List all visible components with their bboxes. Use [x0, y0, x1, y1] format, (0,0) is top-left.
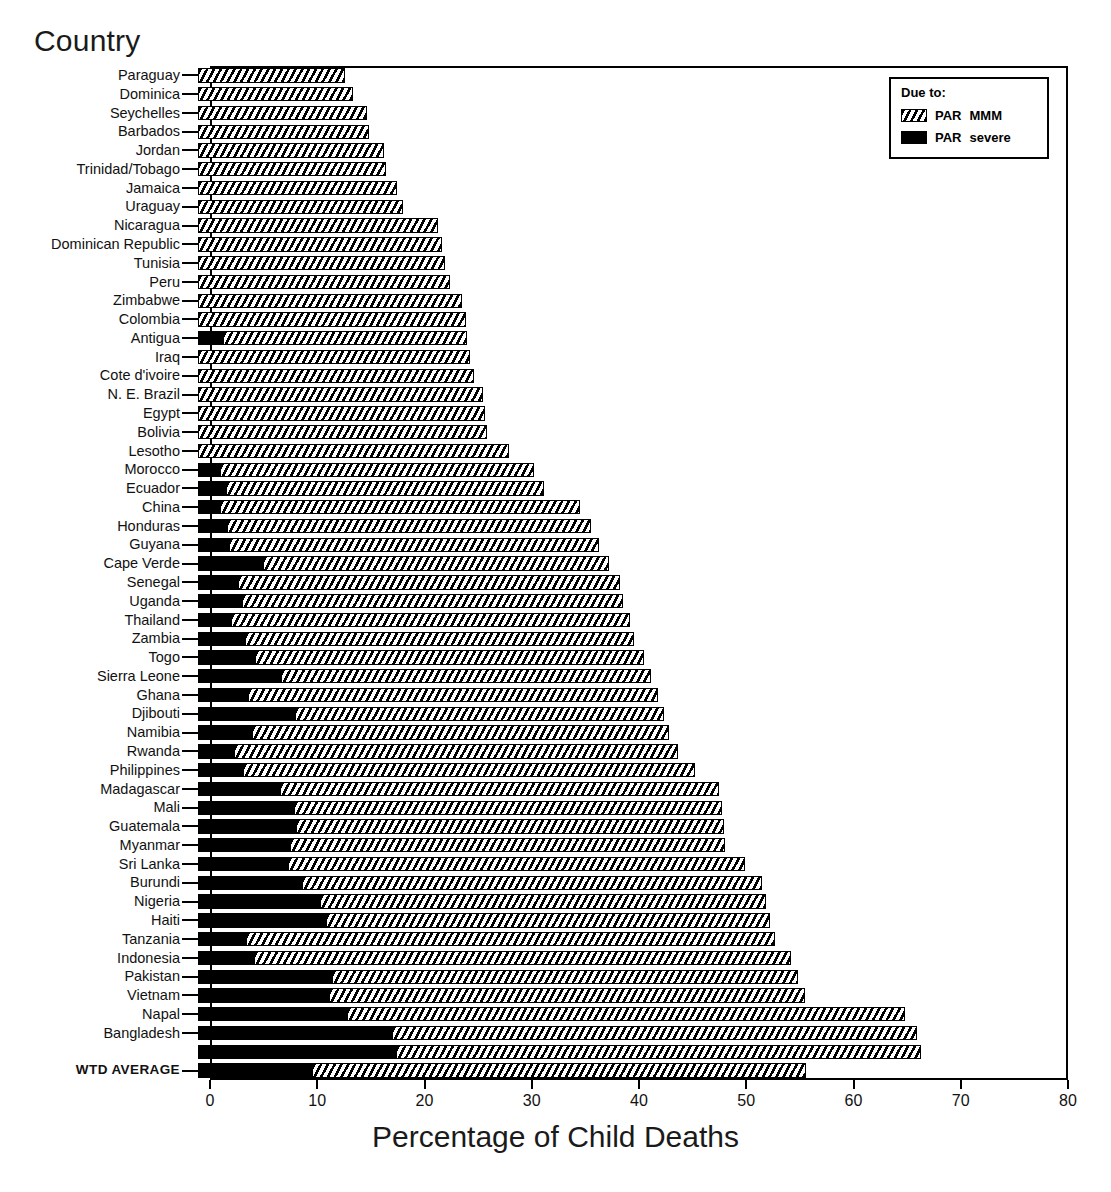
bar-row: Uraguay	[0, 197, 1111, 216]
stacked-bar	[198, 1063, 806, 1077]
bar-row: Cape Verde	[0, 554, 1111, 573]
bar-segment-par-mmm	[297, 820, 724, 832]
bar-segment-par-mmm	[199, 219, 438, 231]
bar-segment-par-mmm	[327, 914, 770, 926]
bar-row: Myanmar	[0, 836, 1111, 855]
stacked-bar	[198, 801, 722, 815]
bar-segment-par-severe	[199, 501, 221, 513]
bar-row: Philippines	[0, 761, 1111, 780]
stacked-bar	[198, 970, 798, 984]
bar-segment-par-mmm	[199, 370, 474, 382]
bar-segment-par-mmm	[348, 1008, 905, 1020]
stacked-bar	[198, 688, 658, 702]
stacked-bar	[198, 181, 397, 195]
category-label: Iraq	[0, 348, 180, 367]
bar-segment-par-mmm	[199, 313, 466, 325]
stacked-bar	[198, 725, 669, 739]
bar-row: Bangladesh	[0, 1024, 1111, 1043]
bar-row: Colombia	[0, 310, 1111, 329]
stacked-bar	[198, 988, 805, 1002]
stacked-bar	[198, 444, 509, 458]
bar-segment-par-mmm	[199, 426, 487, 438]
bar-segment-par-severe	[199, 633, 246, 645]
category-label: Bangladesh	[0, 1024, 180, 1043]
bar-row: Trinidad/Tobago	[0, 160, 1111, 179]
bar-segment-par-severe	[199, 1027, 393, 1039]
bar-row: Dominican Republic	[0, 235, 1111, 254]
bar-row	[0, 1042, 1111, 1061]
category-label: Honduras	[0, 517, 180, 536]
bar-row: Djibouti	[0, 704, 1111, 723]
bar-segment-par-mmm	[199, 257, 445, 269]
bar-segment-par-mmm	[264, 557, 609, 569]
x-axis-tick	[424, 1080, 426, 1089]
bar-segment-par-mmm	[282, 670, 651, 682]
x-axis-tick-label: 0	[206, 1092, 215, 1110]
category-label: Thailand	[0, 611, 180, 630]
stacked-bar	[198, 106, 367, 120]
category-label: Uganda	[0, 592, 180, 611]
stacked-bar	[198, 1007, 905, 1021]
bar-row: Peru	[0, 273, 1111, 292]
bar-segment-par-mmm	[199, 107, 367, 119]
category-label: Ghana	[0, 686, 180, 705]
bar-segment-par-mmm	[255, 952, 791, 964]
bar-segment-par-mmm	[333, 971, 797, 983]
bar-segment-par-severe	[199, 576, 239, 588]
category-label: Tunisia	[0, 254, 180, 273]
bar-segment-par-severe	[199, 557, 264, 569]
category-label: Sri Lanka	[0, 855, 180, 874]
stacked-bar	[198, 538, 599, 552]
bar-segment-par-mmm	[221, 464, 534, 476]
stacked-bar	[198, 425, 487, 439]
bar-segment-par-mmm	[253, 726, 669, 738]
x-axis-tick-label: 40	[630, 1092, 648, 1110]
stacked-bar	[198, 669, 651, 683]
bar-segment-par-severe	[199, 914, 327, 926]
category-label: Guyana	[0, 535, 180, 554]
category-label: Zambia	[0, 629, 180, 648]
x-axis-title: Percentage of Child Deaths	[0, 1120, 1111, 1154]
x-axis-tick	[531, 1080, 533, 1089]
bar-segment-par-severe	[199, 1008, 348, 1020]
category-label: Togo	[0, 648, 180, 667]
stacked-bar	[198, 932, 775, 946]
bar-row: Lesotho	[0, 442, 1111, 461]
category-label: Dominica	[0, 85, 180, 104]
bar-row: Madagascar	[0, 780, 1111, 799]
category-label: Indonesia	[0, 949, 180, 968]
bar-row: Sierra Leone	[0, 667, 1111, 686]
bar-row: WTD AVERAGE	[0, 1061, 1111, 1080]
bar-segment-par-severe	[199, 651, 256, 663]
bar-segment-par-mmm	[221, 501, 580, 513]
bar-row: Iraq	[0, 348, 1111, 367]
stacked-bar	[198, 463, 534, 477]
bar-row: Senegal	[0, 573, 1111, 592]
x-axis-tick	[209, 1080, 211, 1089]
legend-item-label: PARMMM	[935, 108, 1002, 123]
stacked-bar	[198, 1026, 917, 1040]
category-label: Seychelles	[0, 104, 180, 123]
bar-segment-par-severe	[199, 895, 321, 907]
bar-row: Namibia	[0, 723, 1111, 742]
x-axis-tick-label: 60	[845, 1092, 863, 1110]
bar-row: Togo	[0, 648, 1111, 667]
x-axis-tick-label: 10	[308, 1092, 326, 1110]
category-label: Uraguay	[0, 197, 180, 216]
bar-row: Haiti	[0, 911, 1111, 930]
bar-segment-par-severe	[199, 670, 282, 682]
category-label: Namibia	[0, 723, 180, 742]
stacked-bar	[198, 162, 386, 176]
bar-row: Zimbabwe	[0, 291, 1111, 310]
stacked-bar	[198, 519, 591, 533]
stacked-bar	[198, 894, 766, 908]
bar-segment-par-severe	[199, 689, 249, 701]
stacked-bar	[198, 68, 345, 82]
legend-item-label: PARsevere	[935, 130, 1011, 145]
category-label: Nigeria	[0, 892, 180, 911]
stacked-bar	[198, 125, 369, 139]
bar-segment-par-severe	[199, 464, 221, 476]
category-label: Egypt	[0, 404, 180, 423]
x-axis-tick	[853, 1080, 855, 1089]
bar-segment-par-severe	[199, 820, 297, 832]
